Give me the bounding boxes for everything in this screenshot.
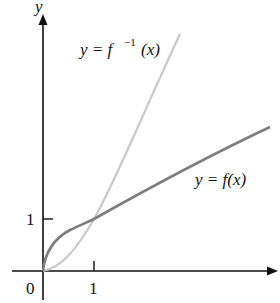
inverse-function-label: y = f −1 (x) — [78, 36, 160, 59]
function-curve — [43, 127, 270, 271]
y-axis-label: y — [33, 0, 43, 16]
function-label: y = f(x) — [193, 170, 246, 189]
inverse-label-suffix: (x) — [141, 40, 160, 59]
inverse-label-prefix: y = f — [78, 40, 115, 59]
function-inverse-chart: y 0 1 1 y = f −1 (x) y = f(x) — [0, 0, 280, 303]
inverse-label-superscript: −1 — [124, 36, 136, 48]
y-tick-label-1: 1 — [26, 210, 35, 229]
x-tick-label-1: 1 — [89, 279, 98, 298]
x-axis-arrow-icon — [267, 267, 278, 276]
origin-label: 0 — [26, 279, 35, 298]
